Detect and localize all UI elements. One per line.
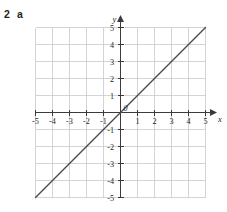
x-tick-label: 3 — [169, 117, 173, 126]
x-tick-label: 2 — [152, 117, 156, 126]
graph-svg: -5 -4 -3 -2 -1 1 2 3 4 5 5 4 3 2 1 -1 -2… — [0, 0, 227, 212]
y-tick-label: 3 — [110, 58, 114, 67]
y-axis-arrow-icon — [117, 15, 124, 22]
x-tick-label: -2 — [83, 117, 90, 126]
x-tick-label: 5 — [203, 117, 207, 126]
y-tick-label: -1 — [107, 126, 114, 135]
y-axis-label: y — [112, 14, 117, 24]
figure-2a: 2a — [0, 0, 227, 212]
y-tick-label: -5 — [107, 194, 114, 203]
origin-label: 0 — [124, 104, 128, 113]
x-tick-label: 1 — [135, 117, 139, 126]
x-axis-label: x — [217, 114, 222, 124]
x-axis-tick-labels: -5 -4 -3 -2 -1 1 2 3 4 5 — [32, 117, 207, 126]
x-tick-label: -1 — [100, 117, 107, 126]
y-tick-label: 5 — [110, 24, 114, 33]
y-tick-label: 1 — [110, 92, 114, 101]
y-tick-label: -4 — [107, 177, 114, 186]
coordinate-plane: -5 -4 -3 -2 -1 1 2 3 4 5 5 4 3 2 1 -1 -2… — [0, 0, 227, 212]
x-tick-label: -5 — [32, 117, 39, 126]
x-tick-label: -4 — [49, 117, 56, 126]
x-tick-label: -3 — [66, 117, 73, 126]
y-tick-label: -2 — [107, 143, 114, 152]
x-tick-label: 4 — [186, 117, 190, 126]
y-tick-label: 2 — [110, 75, 114, 84]
x-axis-arrow-icon — [210, 109, 217, 116]
y-tick-label: 4 — [110, 41, 114, 50]
y-tick-label: -3 — [107, 160, 114, 169]
